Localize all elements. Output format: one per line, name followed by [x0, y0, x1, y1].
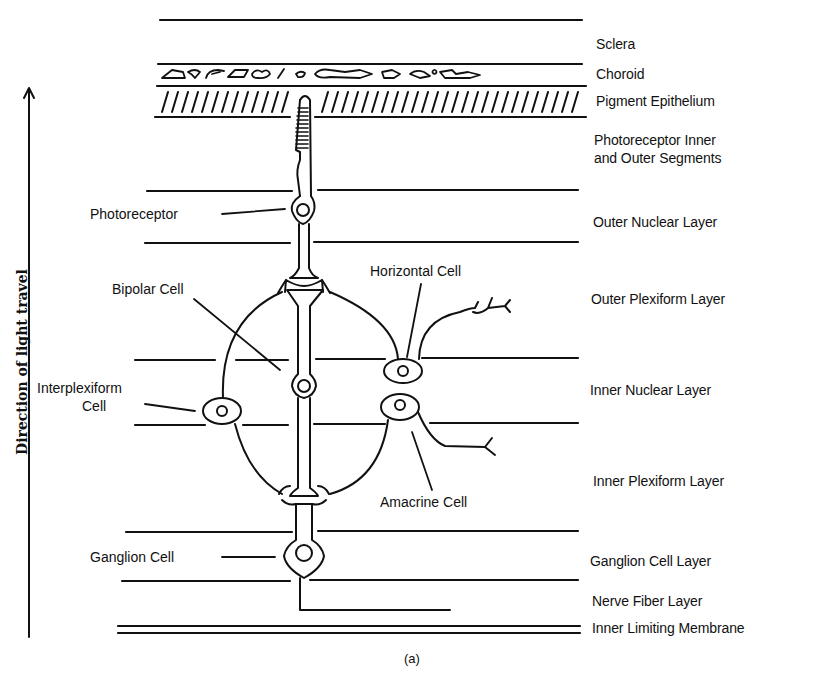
layer-label-ganglion-cell: Ganglion Cell Layer — [590, 553, 711, 570]
layer-label-photoreceptor-segments-line2: and Outer Segments — [594, 150, 721, 167]
layer-label-choroid: Choroid — [596, 66, 644, 83]
cell-label-interplexiform-line2: Cell — [82, 398, 106, 415]
figure-caption: (a) — [404, 651, 420, 666]
layer-label-photoreceptor-segments: Photoreceptor Inner — [594, 132, 716, 149]
cell-label-amacrine: Amacrine Cell — [380, 494, 467, 511]
layer-label-inner-plexiform: Inner Plexiform Layer — [593, 473, 724, 490]
interplexiform-cell — [203, 292, 282, 494]
bipolar-cell — [278, 280, 330, 496]
cell-label-photoreceptor: Photoreceptor — [90, 206, 178, 223]
cell-label-ganglion: Ganglion Cell — [90, 549, 174, 566]
layer-label-nerve-fiber: Nerve Fiber Layer — [592, 593, 702, 610]
pigment-epithelium-hatching — [162, 92, 578, 112]
layer-label-inner-limiting-membrane: Inner Limiting Membrane — [592, 620, 745, 637]
amacrine-cell — [330, 394, 495, 494]
layer-label-sclera: Sclera — [596, 36, 635, 53]
layer-label-outer-plexiform: Outer Plexiform Layer — [591, 291, 725, 308]
cell-label-interplexiform: Interplexiform — [37, 380, 122, 397]
layer-label-pigment-epithelium: Pigment Epithelium — [596, 93, 715, 110]
cell-label-horizontal: Horizontal Cell — [370, 263, 461, 280]
cell-label-bipolar: Bipolar Cell — [112, 281, 184, 298]
layer-label-outer-nuclear: Outer Nuclear Layer — [593, 214, 717, 231]
horizontal-cell — [330, 292, 510, 383]
photoreceptor-cell — [290, 96, 318, 278]
light-direction-label: Direction of light travel — [14, 269, 30, 455]
choroid-vessels-pattern — [162, 69, 480, 78]
layer-label-inner-nuclear: Inner Nuclear Layer — [590, 382, 711, 399]
